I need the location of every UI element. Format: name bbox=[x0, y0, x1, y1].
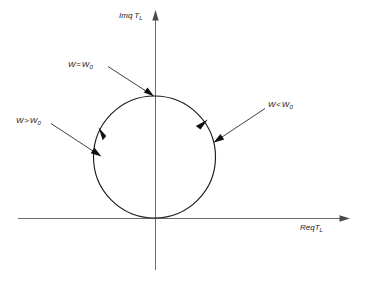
pointer-line-w-less bbox=[219, 109, 265, 140]
pointer-arrowhead-w-equals bbox=[144, 87, 154, 96]
horizontal-axis-arrowhead bbox=[340, 215, 351, 221]
annotation-sub-w-greater: 0 bbox=[37, 120, 41, 126]
imaginary-axis-label: ImqTL bbox=[119, 12, 143, 21]
pointer-arrowhead-w-greater bbox=[91, 148, 102, 157]
flow-direction-arrowhead-left bbox=[99, 128, 107, 141]
vertical-axis-arrowhead bbox=[152, 10, 158, 21]
pointer-line-w-equals bbox=[108, 67, 149, 94]
figure-canvas: W=W0 W>W0 W<W0 ImqTL ReqTL bbox=[0, 0, 368, 285]
real-axis-operator: Req bbox=[300, 223, 315, 232]
imaginary-axis-operator: Imq bbox=[119, 11, 132, 20]
annotation-var-w-less: W bbox=[268, 100, 276, 109]
annotation-var-w-equals: W bbox=[68, 60, 76, 69]
locus-circle bbox=[94, 96, 216, 218]
real-axis-label: ReqTL bbox=[300, 224, 323, 233]
annotation-var-w-greater: W bbox=[16, 116, 24, 125]
annotation-sub-w-equals: 0 bbox=[89, 64, 93, 70]
pointer-arrowhead-w-less bbox=[213, 134, 224, 143]
annotation-label-w-greater-w0: W>W0 bbox=[16, 117, 41, 126]
locus-group bbox=[94, 96, 216, 218]
annotation-sub-w-less: 0 bbox=[289, 104, 293, 110]
real-axis-subscript: L bbox=[320, 227, 323, 233]
annotation-pointer-w-less bbox=[213, 109, 265, 143]
annotation-label-w-equals-w0: W=W0 bbox=[68, 61, 93, 70]
pointer-line-w-greater bbox=[51, 124, 96, 154]
annotation-pointer-w-greater bbox=[51, 124, 101, 157]
annotation-label-w-less-w0: W<W0 bbox=[268, 101, 293, 110]
imaginary-axis-subscript: L bbox=[139, 15, 142, 21]
annotation-pointer-w-equals bbox=[108, 67, 154, 97]
figure-vector-layer bbox=[0, 0, 368, 285]
